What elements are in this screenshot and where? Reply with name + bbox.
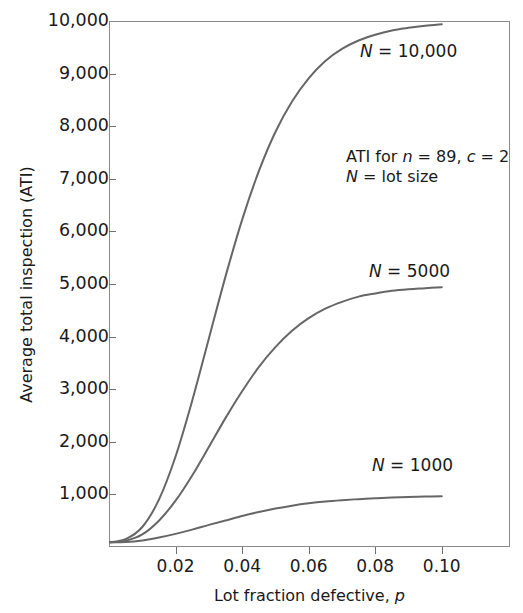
x-axis-tick-mark — [176, 547, 177, 554]
y-axis-tick-mark — [109, 126, 116, 127]
annotation-variable-n: n — [402, 147, 412, 166]
y-axis-tick-label: 2,000 — [17, 433, 109, 451]
x-axis-tick-mark — [442, 547, 443, 554]
curve-label-variable: N — [360, 41, 373, 61]
x-axis-tick-label: 0.10 — [402, 556, 482, 576]
curve-label-n-10000: N = 10,000 — [360, 41, 457, 61]
y-axis-tick-label: 8,000 — [17, 117, 109, 135]
annotation-prefix: ATI for — [346, 147, 402, 166]
ati-curves-figure: 1,0002,0003,0004,0005,0006,0007,0008,000… — [0, 0, 523, 613]
y-axis-tick-label: 1,000 — [17, 485, 109, 503]
y-axis-tick-label: 9,000 — [17, 65, 109, 83]
y-axis-tick-mark — [109, 442, 116, 443]
annotation-mid: = 89, — [413, 147, 467, 166]
curve-n-5000 — [109, 287, 442, 542]
annotation-variable-N: N — [346, 167, 358, 186]
y-axis-tick-label: 10,000 — [17, 12, 109, 30]
y-axis-tick-mark — [109, 389, 116, 390]
curve-label-value: = 1000 — [385, 455, 453, 475]
curve-label-variable: N — [369, 261, 382, 281]
curve-label-n-5000: N = 5000 — [369, 261, 450, 281]
x-axis-title-variable: p — [395, 586, 405, 605]
annotation-line-2: N = lot size — [346, 167, 509, 187]
curve-label-variable: N — [372, 455, 385, 475]
annotation-line-2-suffix: = lot size — [358, 167, 438, 186]
y-axis-tick-mark — [109, 74, 116, 75]
y-axis-tick-mark — [109, 494, 116, 495]
x-axis-title: Lot fraction defective, p — [109, 586, 510, 605]
annotation-line-1: ATI for n = 89, c = 2 — [346, 147, 509, 167]
curve-label-value: = 5000 — [382, 261, 450, 281]
plan-annotation: ATI for n = 89, c = 2 N = lot size — [346, 147, 509, 188]
x-axis-title-prefix: Lot fraction defective, — [214, 586, 395, 605]
y-axis-tick-mark — [109, 284, 116, 285]
annotation-suffix: = 2 — [475, 147, 509, 166]
y-axis-tick-mark — [109, 179, 116, 180]
y-axis-tick-mark — [109, 337, 116, 338]
x-axis-tick-mark — [309, 547, 310, 554]
x-axis-tick-mark — [375, 547, 376, 554]
x-axis-tick-mark — [242, 547, 243, 554]
curve-label-n-1000: N = 1000 — [372, 455, 453, 475]
y-axis-tick-mark — [109, 231, 116, 232]
curve-label-value: = 10,000 — [373, 41, 458, 61]
y-axis-title: Average total inspection (ATI) — [17, 155, 36, 415]
